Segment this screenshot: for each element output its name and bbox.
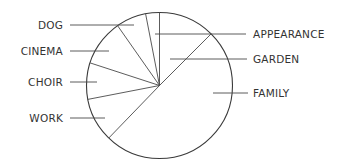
label-appearance: APPEARANCE xyxy=(253,28,325,40)
label-work: WORK xyxy=(29,112,63,124)
label-cinema: CINEMA xyxy=(21,45,63,57)
label-family: FAMILY xyxy=(253,87,289,99)
label-garden: GARDEN xyxy=(253,53,299,65)
label-dog: DOG xyxy=(38,19,63,31)
label-choir: CHOIR xyxy=(28,76,63,88)
